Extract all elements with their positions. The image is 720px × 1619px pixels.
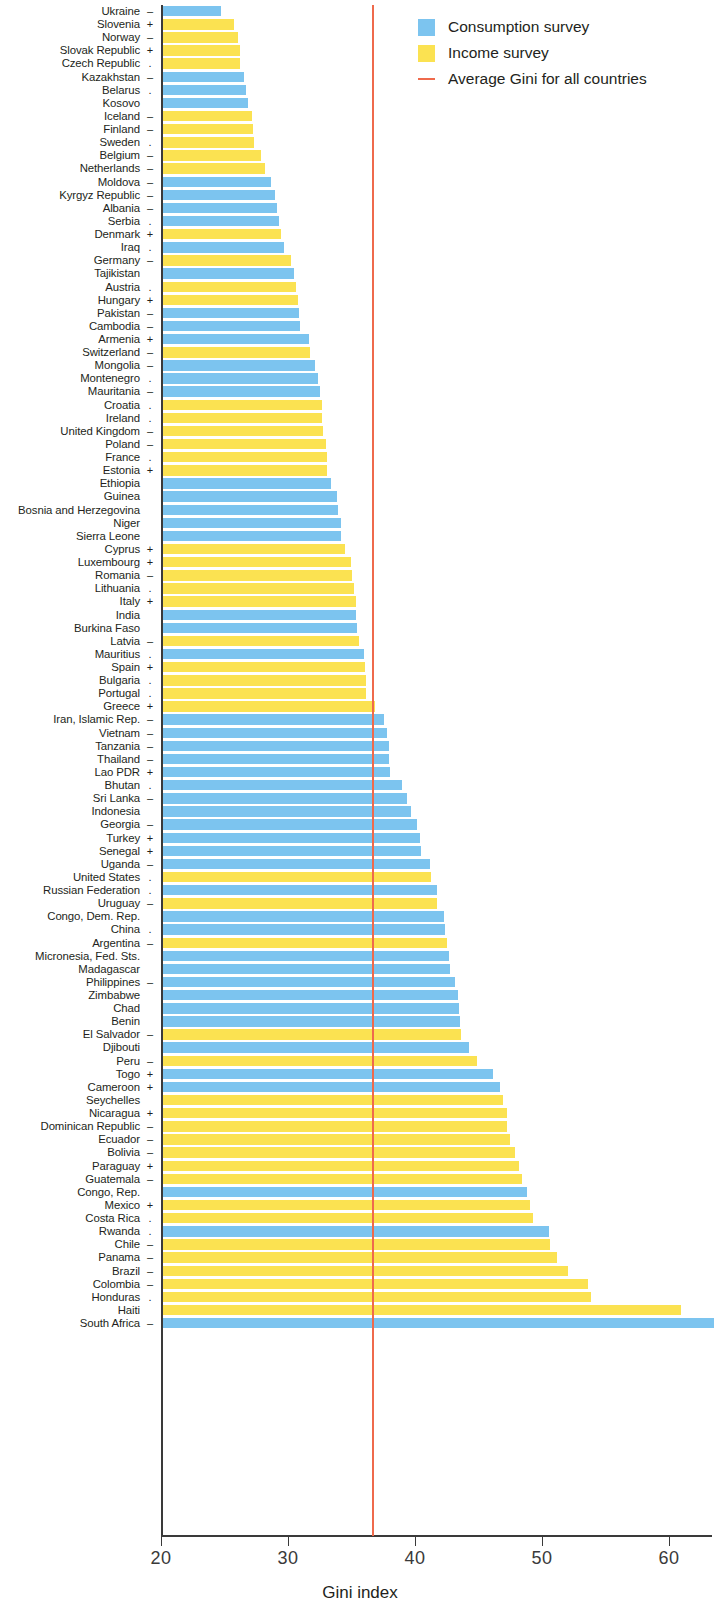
bar-row bbox=[163, 294, 712, 307]
country-label: Dominican Republic bbox=[41, 1120, 141, 1133]
trend-symbol: – bbox=[143, 1028, 157, 1041]
bar-income bbox=[163, 465, 327, 475]
x-axis-spine bbox=[161, 1535, 712, 1537]
country-label: Panama bbox=[98, 1251, 140, 1264]
trend-symbol bbox=[143, 504, 157, 517]
country-label: Nicaragua bbox=[89, 1107, 140, 1120]
bar-income bbox=[163, 1200, 530, 1210]
bar-row bbox=[163, 569, 712, 582]
bar-income bbox=[163, 1266, 568, 1276]
bar-row bbox=[163, 425, 712, 438]
bar-consumption bbox=[163, 767, 390, 777]
country-label: Colombia bbox=[93, 1278, 140, 1291]
bar-row bbox=[163, 1265, 712, 1278]
bar-row bbox=[163, 1173, 712, 1186]
bar-row bbox=[163, 700, 712, 713]
country-label: Russian Federation bbox=[43, 884, 140, 897]
bar-row bbox=[163, 740, 712, 753]
trend-symbol: + bbox=[143, 700, 157, 713]
country-label: Djibouti bbox=[103, 1041, 140, 1054]
bar-income bbox=[163, 662, 365, 672]
bar-income bbox=[163, 1174, 522, 1184]
trend-symbol bbox=[143, 622, 157, 635]
bar-consumption bbox=[163, 6, 221, 16]
bar-row bbox=[163, 845, 712, 858]
country-label: Denmark bbox=[94, 228, 140, 241]
legend-item-average-gini: Average Gini for all countries bbox=[418, 66, 708, 92]
bar-income bbox=[163, 282, 296, 292]
country-label: Benin bbox=[111, 1015, 140, 1028]
trend-symbol: . bbox=[143, 674, 157, 687]
bar-consumption bbox=[163, 1226, 549, 1236]
bar-row bbox=[163, 910, 712, 923]
bar-income bbox=[163, 1213, 533, 1223]
bar-consumption bbox=[163, 819, 417, 829]
trend-symbol: . bbox=[143, 871, 157, 884]
trend-symbol: – bbox=[143, 149, 157, 162]
bar-income bbox=[163, 1056, 477, 1066]
country-label: Congo, Dem. Rep. bbox=[47, 910, 140, 923]
bar-income bbox=[163, 596, 356, 606]
bar-row bbox=[163, 530, 712, 543]
trend-symbol bbox=[143, 1094, 157, 1107]
bar-row bbox=[163, 1015, 712, 1028]
trend-symbol: . bbox=[143, 281, 157, 294]
trend-symbol: + bbox=[143, 333, 157, 346]
bar-consumption bbox=[163, 990, 458, 1000]
gini-index-bar-chart: UkraineSloveniaNorwaySlovak RepublicCzec… bbox=[0, 0, 720, 1619]
bar-consumption bbox=[163, 268, 294, 278]
trend-symbol: . bbox=[143, 136, 157, 149]
legend-swatch-income-icon bbox=[418, 45, 435, 62]
bar-row bbox=[163, 228, 712, 241]
trend-symbol: – bbox=[143, 110, 157, 123]
country-label: Norway bbox=[102, 31, 140, 44]
bar-row bbox=[163, 215, 712, 228]
bar-consumption bbox=[163, 478, 331, 488]
trend-symbol: – bbox=[143, 1133, 157, 1146]
country-label: Cameroon bbox=[88, 1081, 140, 1094]
trend-symbol: + bbox=[143, 1160, 157, 1173]
bar-row bbox=[163, 97, 712, 110]
trend-symbol: – bbox=[143, 753, 157, 766]
country-label: Armenia bbox=[98, 333, 140, 346]
bar-row bbox=[163, 254, 712, 267]
bar-consumption bbox=[163, 531, 341, 541]
country-label: United States bbox=[73, 871, 140, 884]
bar-income bbox=[163, 1029, 461, 1039]
bar-consumption bbox=[163, 977, 455, 987]
bar-consumption bbox=[163, 373, 318, 383]
bar-row bbox=[163, 1120, 712, 1133]
country-label: Georgia bbox=[100, 818, 140, 831]
trend-symbol: – bbox=[143, 189, 157, 202]
trend-symbol: + bbox=[143, 1199, 157, 1212]
bar-row bbox=[163, 1291, 712, 1304]
bar-row bbox=[163, 110, 712, 123]
country-label: Moldova bbox=[98, 176, 140, 189]
trend-symbol: . bbox=[143, 648, 157, 661]
bar-row bbox=[163, 1212, 712, 1225]
country-label: Sri Lanka bbox=[93, 792, 140, 805]
trend-symbol: – bbox=[143, 1317, 157, 1330]
country-label: Czech Republic bbox=[62, 57, 140, 70]
bar-row bbox=[163, 871, 712, 884]
bar-row bbox=[163, 346, 712, 359]
bar-row bbox=[163, 307, 712, 320]
trend-symbol: – bbox=[143, 1238, 157, 1251]
bar-income bbox=[163, 163, 265, 173]
x-axis-tick-label: 40 bbox=[405, 1548, 426, 1569]
bar-row bbox=[163, 504, 712, 517]
country-label: United Kingdom bbox=[60, 425, 140, 438]
bar-row bbox=[163, 661, 712, 674]
country-label: Rwanda bbox=[99, 1225, 140, 1238]
bar-row bbox=[163, 176, 712, 189]
country-label: Congo, Rep. bbox=[77, 1186, 140, 1199]
bar-row bbox=[163, 1094, 712, 1107]
country-label: Croatia bbox=[104, 399, 140, 412]
trend-symbol: – bbox=[143, 307, 157, 320]
bar-consumption bbox=[163, 98, 248, 108]
bar-consumption bbox=[163, 846, 421, 856]
country-label: Senegal bbox=[99, 845, 140, 858]
bar-consumption bbox=[163, 833, 420, 843]
country-label: Haiti bbox=[118, 1304, 140, 1317]
bar-income bbox=[163, 1161, 519, 1171]
